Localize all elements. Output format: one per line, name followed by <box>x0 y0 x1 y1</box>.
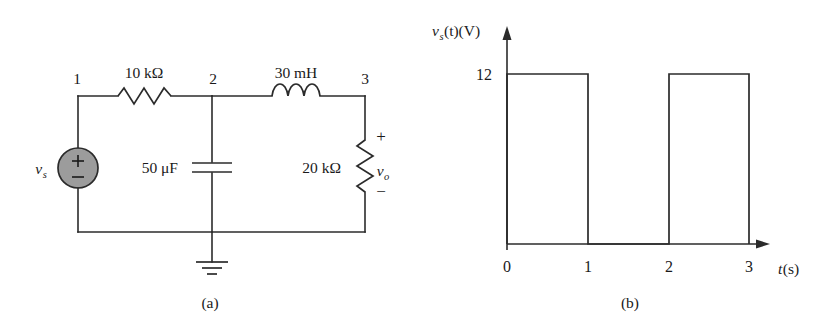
node-3-label: 3 <box>361 70 369 87</box>
source-label-subscript: s <box>43 169 47 180</box>
y-axis-title-subscript: s <box>439 31 443 42</box>
resistor-10k-symbol <box>118 88 171 104</box>
x-tick-label-0: 0 <box>503 258 511 275</box>
node-1-label: 1 <box>73 70 81 87</box>
resistor-20k-symbol <box>357 140 373 192</box>
y-axis-title-rest: (t)(V) <box>444 22 480 40</box>
inductor-30mH-label: 30 mH <box>275 64 318 81</box>
source-label-main: v <box>35 160 42 177</box>
x-tick-label-2: 2 <box>665 258 673 275</box>
node-2-label: 2 <box>209 70 217 87</box>
waveform-plot: 12 0 1 2 3 vs(t)(V) t(s) (b) <box>420 0 829 330</box>
output-label-main: v <box>377 162 384 179</box>
waveform-panel: 12 0 1 2 3 vs(t)(V) t(s) (b) <box>420 0 829 330</box>
y-axis-title-main: v <box>432 22 439 39</box>
capacitor-50uF-label: 50 μF <box>142 159 179 176</box>
caption-panel-a: (a) <box>201 294 218 312</box>
circuit-panel: + − 1 2 3 10 kΩ 30 mH 50 μF 20 kΩ vs vo … <box>0 0 420 330</box>
source-label: vs <box>35 160 46 180</box>
x-axis-title: t(s) <box>778 260 799 278</box>
inductor-30mH-symbol <box>272 84 320 96</box>
circuit-schematic: + − 1 2 3 10 kΩ 30 mH 50 μF 20 kΩ vs vo … <box>0 0 420 330</box>
waveform-trace <box>507 74 749 244</box>
x-axis-arrowhead-icon <box>756 240 770 249</box>
caption-panel-b: (b) <box>621 294 639 312</box>
y-axis-arrowhead-icon <box>503 26 512 40</box>
figure-root: + − 1 2 3 10 kΩ 30 mH 50 μF 20 kΩ vs vo … <box>0 0 829 330</box>
y-axis-title: vs(t)(V) <box>432 22 480 42</box>
output-minus-sign: − <box>376 182 386 201</box>
output-plus-sign: + <box>376 127 386 146</box>
y-tick-label-12: 12 <box>476 66 492 83</box>
x-axis-title-rest: (s) <box>783 260 799 278</box>
output-voltage-label: vo <box>377 162 390 182</box>
x-tick-label-3: 3 <box>745 258 753 275</box>
output-label-subscript: o <box>384 171 389 182</box>
resistor-20k-label: 20 kΩ <box>302 159 341 176</box>
x-tick-label-1: 1 <box>584 258 592 275</box>
voltage-source-symbol <box>58 148 98 188</box>
resistor-10k-label: 10 kΩ <box>125 64 164 81</box>
